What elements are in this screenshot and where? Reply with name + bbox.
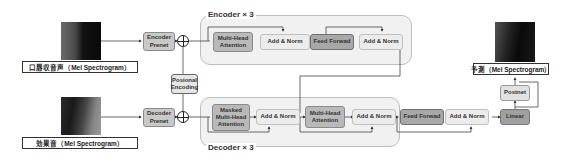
decoder-add-norm-2: Add & Norm	[352, 109, 396, 125]
encoder-prenet: Encoder Prenet	[143, 32, 175, 51]
encoder-add-icon	[177, 35, 189, 47]
decoder-add-icon	[177, 111, 189, 123]
encoder-add-norm-1: Add & Norm	[260, 34, 310, 50]
encoder-feed-forward: Feed Forwad	[310, 34, 354, 50]
positional-encoding: Posional Encoding	[171, 74, 198, 94]
decoder-multi-head-attention: Multi-Head Attention	[305, 106, 345, 128]
encoder-add-norm-2: Add & Norm	[359, 34, 403, 50]
linear-layer: Linear	[500, 109, 530, 125]
decoder-add-norm-1: Add & Norm	[256, 109, 300, 125]
decoder-masked-multi-head-attention: Masked Multi-Head Attention	[212, 104, 250, 131]
connector-lines	[0, 0, 576, 163]
decoder-add-norm-3: Add & Norm	[445, 109, 489, 125]
encoder-multi-head-attention: Multi-Head Attention	[213, 32, 253, 52]
decoder-feed-forward: Feed Forwad	[400, 109, 444, 125]
postnet: Postnet	[500, 85, 530, 101]
decoder-prenet: Decoder Prenet	[143, 108, 175, 127]
